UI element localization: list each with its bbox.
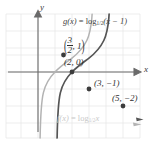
- right-paren: ): [82, 39, 85, 55]
- point-label-three-neg-one: (3, −1): [94, 78, 120, 88]
- curve-g-fn-name: g(x): [63, 16, 77, 26]
- point-5-neg2: [121, 104, 126, 109]
- y-axis-label: y: [40, 2, 44, 12]
- point-label-three-halves-one: (32, 1): [64, 36, 85, 55]
- x-axis-label: x: [144, 64, 148, 74]
- curve-g-equation-label: g(x) = log1/2(x − 1): [63, 16, 127, 26]
- point-2-0: [70, 70, 75, 75]
- curve-f-fn-name: f(x): [57, 113, 69, 123]
- curve-f-log-argument: x: [95, 113, 99, 123]
- left-paren: (: [64, 39, 67, 55]
- curve-f-equation-label: f(x) = log1/2x: [57, 113, 99, 123]
- point-3-neg1: [87, 87, 92, 92]
- curve-g-log-argument: (x − 1): [103, 16, 127, 26]
- log-function-graph-figure: y x g(x) = log1/2(x − 1) (32, 1) (2, 0) …: [0, 0, 153, 143]
- curve-g-equals-log: = log: [77, 16, 97, 26]
- point-label-five-neg-two: (5, −2): [112, 93, 138, 103]
- point-label-second-coord: , 1: [73, 41, 82, 51]
- curve-f-equals-log: = log: [69, 113, 89, 123]
- point-label-two-zero: (2, 0): [64, 57, 84, 67]
